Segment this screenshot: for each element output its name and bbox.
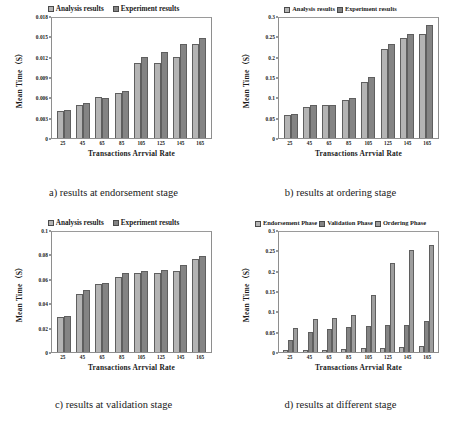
y-axis-title: Mean Time（S）: [240, 231, 252, 353]
bar: [400, 38, 407, 138]
x-axis-tick-label: 25: [54, 140, 72, 149]
bar-group: [284, 18, 298, 138]
bar-series-container: [279, 18, 438, 138]
y-axis-tick-label: 0.06: [39, 277, 48, 283]
x-axis-tick-label: 145: [399, 140, 417, 149]
legend-entry: Experiment results: [337, 6, 397, 12]
legend-label: Ordering Phase: [383, 220, 426, 226]
x-axis-tick-label: 145: [172, 140, 190, 149]
legend-label: Experiment results: [345, 6, 397, 12]
chart-panel-c: Analysis results Experiment results Mean…: [0, 214, 227, 427]
y-axis-tick-label: 0.006: [36, 95, 48, 101]
legend-swatch-icon: [113, 220, 119, 226]
bar: [192, 44, 199, 138]
x-axis-tick-label: 165: [191, 354, 209, 363]
chart-area-a: Mean Time（S） 00.0030.0060.0090.0120.0150…: [11, 17, 216, 167]
legend-entry: Ordering Phase: [375, 220, 426, 226]
x-axis-tick-label: 105: [132, 140, 150, 149]
y-axis-tick-label: 0.05: [266, 330, 275, 336]
plot-area: [278, 231, 439, 353]
bar-group: [342, 18, 356, 138]
x-axis-tick-label: 85: [340, 140, 358, 149]
bar: [419, 34, 426, 138]
bar: [154, 63, 161, 138]
x-axis-tick-label: 25: [281, 354, 299, 363]
bar-series-container: [279, 232, 438, 352]
x-axis-tick-label: 45: [300, 354, 318, 363]
legend-a: Analysis results Experiment results: [48, 2, 179, 17]
bar-group: [154, 232, 168, 352]
y-axis-tick-label: 0.1: [268, 309, 275, 315]
bar: [161, 52, 168, 138]
y-axis-title: Mean Time（S）: [13, 231, 25, 353]
x-axis-tick-label: 65: [93, 354, 111, 363]
x-axis-ticks: 25456585105125145165: [278, 354, 439, 363]
bar-group: [283, 232, 298, 352]
x-axis-tick-label: 105: [359, 354, 377, 363]
bar-group: [95, 232, 109, 352]
bar: [76, 105, 83, 138]
legend-entry: Experiment results: [113, 6, 179, 13]
x-axis-tick-label: 125: [379, 354, 397, 363]
legend-swatch-icon: [284, 7, 290, 13]
bar-group: [134, 18, 148, 138]
bar: [83, 103, 90, 138]
bar: [57, 111, 64, 138]
y-axis-tick-label: 0.15: [266, 289, 275, 295]
bar: [95, 284, 102, 352]
bar: [192, 259, 199, 352]
bar-group: [399, 232, 414, 352]
bar: [351, 315, 356, 352]
bar-group: [419, 18, 433, 138]
plot-area: [51, 231, 212, 353]
bar: [429, 245, 434, 352]
bar: [332, 318, 337, 352]
bar: [199, 38, 206, 138]
bar: [361, 82, 368, 138]
bar: [115, 277, 122, 352]
y-axis-ticks: 00.020.040.060.080.1: [25, 231, 51, 353]
bar: [388, 44, 395, 138]
x-axis-ticks: 25456585105125145165: [51, 354, 212, 363]
bar: [291, 114, 298, 138]
legend-entry: Validation Phase: [319, 220, 373, 226]
y-axis-tick-label: 0.08: [39, 252, 48, 258]
bar: [199, 256, 206, 352]
legend-swatch-icon: [319, 221, 325, 227]
x-axis-ticks: 25456585105125145165: [278, 140, 439, 149]
x-axis-title: Transactions Arrvial Rate: [278, 363, 439, 372]
y-axis-tick-label: 0.2: [268, 269, 275, 275]
x-axis-tick-label: 85: [113, 140, 131, 149]
bar: [368, 77, 375, 138]
panel-caption: c) results at validation stage: [55, 399, 172, 410]
y-axis-tick-label: 0.1: [41, 228, 48, 234]
bar: [76, 294, 83, 352]
y-axis-tick-label: 0.009: [36, 75, 48, 81]
bar-group: [192, 18, 206, 138]
bar: [180, 44, 187, 138]
bar: [154, 273, 161, 352]
bar-group: [303, 232, 318, 352]
panel-caption: a) results at endorsement stage: [49, 187, 178, 198]
x-axis-tick-label: 165: [191, 140, 209, 149]
bar-series-container: [52, 18, 211, 138]
bar: [115, 93, 122, 138]
y-axis-tick-label: 0.3: [268, 228, 275, 234]
bar-group: [192, 232, 206, 352]
chart-panel-d: Endorsement Phase Validation Phase Order…: [227, 214, 454, 427]
bar-group: [381, 18, 395, 138]
bar-group: [134, 232, 148, 352]
bar-group: [76, 18, 90, 138]
chart-area-c: Mean Time（S） 00.020.040.060.080.1 254565…: [11, 231, 216, 381]
y-axis-tick-label: 0.015: [36, 34, 48, 40]
x-axis-tick-label: 45: [300, 140, 318, 149]
legend-label: Validation Phase: [327, 220, 373, 226]
bar-group: [380, 232, 395, 352]
y-axis-tick-label: 0.1: [268, 95, 275, 101]
x-axis-tick-label: 25: [54, 354, 72, 363]
bar-group: [173, 232, 187, 352]
chart-panel-a: Analysis results Experiment results Mean…: [0, 0, 227, 214]
x-axis-tick-label: 125: [152, 140, 170, 149]
figure-panel-grid: Analysis results Experiment results Mean…: [0, 0, 454, 427]
legend-entry: Analysis results: [284, 6, 335, 12]
